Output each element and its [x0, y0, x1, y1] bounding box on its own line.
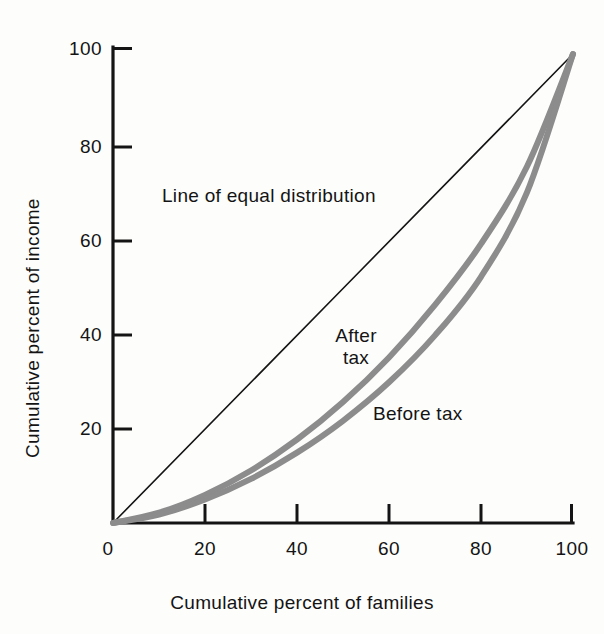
series-line-of-equal-distribution: [113, 54, 573, 523]
x-axis-title: Cumulative percent of families: [0, 592, 604, 614]
y-tick-label-40: 40: [42, 324, 102, 346]
x-tick-label-80: 80: [456, 538, 506, 560]
x-axis-ticks: [205, 504, 572, 523]
annotation-after-tax: After tax: [310, 325, 402, 369]
x-tick-label-20: 20: [180, 538, 230, 560]
y-axis-title: Cumulative percent of income: [22, 198, 44, 458]
y-axis-ticks: [113, 49, 132, 430]
x-tick-label-60: 60: [364, 538, 414, 560]
x-tick-label-40: 40: [272, 538, 322, 560]
lorenz-curve-figure: 100 80 60 40 20 0 20 40 60 80 100 Cumula…: [0, 0, 604, 634]
y-tick-label-60: 60: [42, 230, 102, 252]
annotation-line-of-equal-distribution: Line of equal distribution: [162, 185, 376, 207]
x-tick-label-100: 100: [542, 538, 602, 560]
y-tick-label-100: 100: [42, 38, 102, 60]
annotation-before-tax: Before tax: [373, 403, 463, 425]
y-tick-label-20: 20: [42, 418, 102, 440]
annotation-after-tax-line1: After: [310, 325, 402, 347]
x-tick-label-0: 0: [83, 538, 133, 560]
y-tick-label-80: 80: [42, 136, 102, 158]
annotation-after-tax-line2: tax: [310, 347, 402, 369]
